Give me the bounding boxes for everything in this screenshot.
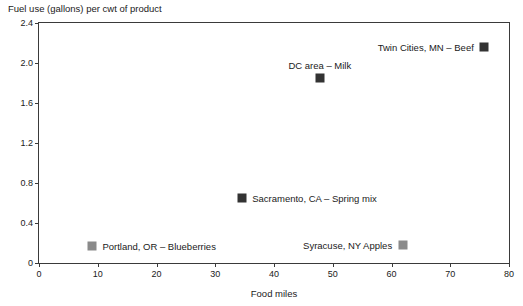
x-axis-label: Food miles	[38, 288, 510, 299]
x-axis-tick-label: 60	[386, 269, 396, 279]
x-axis-tick-label: 30	[210, 269, 220, 279]
y-axis-tick-mark	[35, 63, 39, 64]
x-axis-tick-mark	[274, 263, 275, 267]
data-point-label: Portland, OR – Blueberries	[102, 241, 216, 252]
scatter-chart-figure: Fuel use (gallons) per cwt of product 00…	[0, 0, 523, 306]
x-axis-tick-label: 70	[445, 269, 455, 279]
x-axis-tick-mark	[333, 263, 334, 267]
y-axis-tick-label: 2.0	[20, 58, 33, 68]
x-axis-tick-label: 50	[328, 269, 338, 279]
y-axis-tick-label: 0.8	[20, 178, 33, 188]
data-point-marker[interactable]: Syracuse, NY Apples	[398, 241, 407, 250]
x-axis-tick-mark	[392, 263, 393, 267]
x-axis-tick-mark	[450, 263, 451, 267]
y-axis-tick-mark	[35, 223, 39, 224]
y-axis-tick-mark	[35, 23, 39, 24]
y-axis-tick-mark	[35, 183, 39, 184]
x-axis-tick-mark	[215, 263, 216, 267]
y-axis-tick-label: 1.2	[20, 138, 33, 148]
x-axis-tick-mark	[39, 263, 40, 267]
x-axis-tick-mark	[157, 263, 158, 267]
data-point-marker[interactable]: Sacramento, CA – Spring mix	[237, 194, 246, 203]
data-point-marker[interactable]: Twin Cities, MN – Beef	[480, 43, 489, 52]
data-point-marker[interactable]: DC area – Milk	[315, 74, 324, 83]
x-axis-tick-mark	[509, 263, 510, 267]
data-point-label: Twin Cities, MN – Beef	[378, 42, 474, 53]
x-axis-tick-mark	[98, 263, 99, 267]
y-axis-tick-label: 1.6	[20, 98, 33, 108]
y-axis-tick-label: 0.4	[20, 218, 33, 228]
y-axis-tick-label: 2.4	[20, 18, 33, 28]
x-axis-tick-label: 80	[504, 269, 514, 279]
data-point-label: Syracuse, NY Apples	[303, 240, 392, 251]
data-point-label: DC area – Milk	[288, 60, 351, 71]
y-axis-tick-mark	[35, 103, 39, 104]
data-point-marker[interactable]: Portland, OR – Blueberries	[87, 242, 96, 251]
chart-title: Fuel use (gallons) per cwt of product	[8, 3, 162, 15]
x-axis-tick-label: 20	[151, 269, 161, 279]
x-axis-tick-label: 0	[36, 269, 41, 279]
y-axis-tick-mark	[35, 143, 39, 144]
x-axis-tick-label: 40	[269, 269, 279, 279]
data-point-label: Sacramento, CA – Spring mix	[252, 193, 377, 204]
x-axis-tick-label: 10	[93, 269, 103, 279]
plot-area: 00.40.81.21.62.02.401020304050607080Twin…	[38, 22, 510, 264]
y-axis-tick-label: 0	[28, 258, 33, 268]
